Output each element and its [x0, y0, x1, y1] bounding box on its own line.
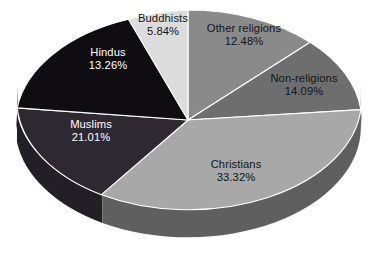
- slice-label-other-religions-name: Other religions: [190, 22, 298, 35]
- slice-label-christians: Christians 33.32%: [186, 158, 286, 184]
- slice-label-hindus-value: 13.26%: [62, 59, 154, 72]
- pie-chart: Other religions 12.48% Non-religions 14.…: [0, 0, 378, 268]
- slice-label-other-religions-value: 12.48%: [190, 35, 298, 48]
- slice-side-non-religions: [361, 81, 362, 128]
- slice-label-christians-value: 33.32%: [186, 171, 286, 184]
- slice-label-other-religions: Other religions 12.48%: [190, 22, 298, 48]
- slice-label-buddhists-name: Buddhists: [120, 12, 206, 25]
- slice-label-muslims-name: Muslims: [42, 118, 140, 131]
- slice-label-muslims-value: 21.01%: [42, 131, 140, 144]
- slice-label-hindus-name: Hindus: [62, 46, 154, 59]
- slice-label-hindus: Hindus 13.26%: [62, 46, 154, 72]
- slice-label-buddhists-value: 5.84%: [120, 25, 206, 38]
- slice-label-non-religions: Non-religions 14.09%: [252, 72, 356, 98]
- slice-label-buddhists: Buddhists 5.84%: [120, 12, 206, 38]
- slice-label-non-religions-value: 14.09%: [252, 85, 356, 98]
- slice-label-non-religions-name: Non-religions: [252, 72, 356, 85]
- slice-label-muslims: Muslims 21.01%: [42, 118, 140, 144]
- slice-label-christians-name: Christians: [186, 158, 286, 171]
